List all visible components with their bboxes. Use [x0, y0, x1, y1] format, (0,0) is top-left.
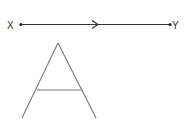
a-left-leg — [22, 43, 58, 118]
label-x: X — [7, 20, 14, 31]
diagram-canvas: X Y — [0, 0, 186, 128]
letter-a-figure — [22, 43, 96, 118]
label-y: Y — [172, 20, 179, 31]
a-right-leg — [58, 43, 96, 118]
